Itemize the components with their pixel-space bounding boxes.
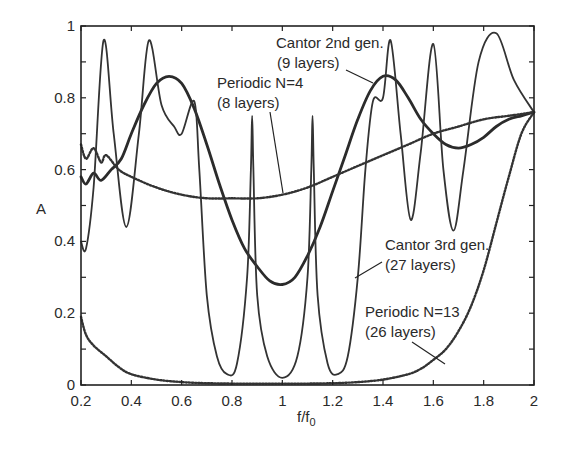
y-tick-label: 0.8: [54, 89, 75, 106]
y-axis-label: A: [36, 200, 46, 217]
x-tick-label: 0.4: [121, 392, 142, 409]
y-tick-labels: 00.20.40.60.81: [54, 17, 75, 393]
y-tick-label: 0.6: [54, 161, 75, 178]
x-tick-label: 1.8: [473, 392, 494, 409]
y-tick-label: 0.4: [54, 232, 75, 249]
annotation-text: Cantor 3rd gen.: [385, 236, 489, 253]
annotation-periodic-4: Periodic N=4 (8 layers): [217, 74, 303, 193]
x-tick-label: 1: [278, 392, 286, 409]
annotation-text: (27 layers): [385, 256, 456, 273]
x-tick-label: 1.2: [322, 392, 343, 409]
y-tick-label: 0: [67, 376, 75, 393]
annotation-text: Cantor 2nd gen.: [276, 34, 384, 51]
plot-lines: [81, 33, 534, 384]
x-tick-label: 0.8: [222, 392, 243, 409]
y-tick-label: 0.2: [54, 304, 75, 321]
y-tick-label: 1: [67, 17, 75, 34]
x-tick-label: 1.4: [373, 392, 394, 409]
annotation-text: (26 layers): [365, 323, 436, 340]
annotation-periodic-13: Periodic N=13 (26 layers): [365, 303, 460, 364]
x-tick-label: 0.6: [171, 392, 192, 409]
annotation-cantor-3rd: Cantor 3rd gen. (27 layers): [355, 236, 489, 278]
annotation-text: Periodic N=4: [217, 74, 303, 91]
x-tick-labels: 0.20.40.60.811.21.41.61.82: [71, 392, 539, 409]
annotation-text: Periodic N=13: [365, 303, 460, 320]
chart: 0.20.40.60.811.21.41.61.82 00.20.40.60.8…: [0, 0, 572, 450]
plot-frame: [81, 26, 534, 385]
x-tick-label: 0.2: [71, 392, 92, 409]
leader-line: [270, 112, 283, 193]
annotation-text: (8 layers): [217, 94, 280, 111]
annotation-text: (9 layers): [277, 54, 340, 71]
axis-ticks: [81, 26, 534, 385]
series-line-2: [81, 33, 534, 378]
x-axis-label: f/f0: [297, 408, 316, 428]
series-line-0: [81, 76, 534, 285]
x-tick-label: 2: [530, 392, 538, 409]
leader-line: [346, 70, 373, 83]
leader-line: [412, 342, 445, 364]
x-tick-label: 1.6: [423, 392, 444, 409]
